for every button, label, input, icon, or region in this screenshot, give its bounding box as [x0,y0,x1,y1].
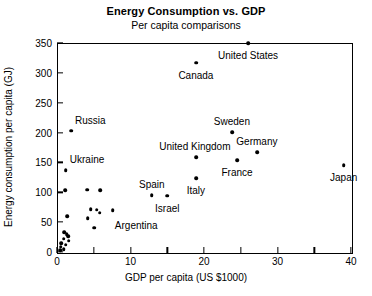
data-point-japan [342,164,346,168]
data-point [85,188,89,192]
point-label: Italy [187,185,205,196]
y-tick-label: 300 [35,67,52,78]
data-point [86,216,90,220]
data-point-italy [194,176,198,180]
x-tick-label: 20 [198,256,209,267]
x-tick-label: 10 [125,256,136,267]
data-point [67,239,71,243]
x-tick-mark [130,247,131,253]
data-point-ukraine [64,168,68,172]
data-point [66,235,70,239]
x-tick-label: 30 [272,256,283,267]
data-point [89,207,93,211]
data-point-israel [165,194,169,198]
data-point [93,226,97,230]
point-label: United States [218,50,278,61]
point-label: France [222,167,253,178]
data-point-spain [150,193,154,197]
y-axis-title: Energy consumption per capita (GJ) [3,67,14,227]
data-point-united-kingdom [194,155,198,159]
point-label: Argentina [115,220,158,231]
x-tick-mark [167,247,168,253]
y-tick-mark [57,42,63,43]
data-point-canada [194,61,198,65]
y-tick-label: 350 [35,38,52,49]
data-point-germany [255,150,259,154]
y-tick-mark [57,221,63,222]
point-label: Sweden [214,116,250,127]
data-point [64,243,68,247]
y-tick-mark [57,132,63,133]
data-point [98,211,102,215]
x-axis-title: GDP per capita (US $1000) [0,272,372,283]
data-point-russia [69,129,73,133]
point-label: Japan [330,172,357,183]
x-tick-mark [203,247,204,253]
y-tick-label: 150 [35,157,52,168]
chart-title: Energy Consumption vs. GDP [0,5,372,17]
chart-subtitle: Per capita comparisons [0,19,372,31]
point-label: Russia [75,115,106,126]
chart-figure: Energy Consumption vs. GDP Per capita co… [0,0,372,296]
point-label: Germany [236,136,277,147]
x-tick-mark [240,247,241,253]
data-point [99,189,103,193]
x-tick-mark [350,247,351,253]
x-tick-mark [314,247,315,253]
x-tick-label: 40 [345,256,356,267]
y-tick-label: 50 [41,217,52,228]
data-point [58,248,62,252]
y-tick-mark [57,102,63,103]
y-tick-label: 0 [46,247,52,258]
point-label: Spain [139,179,165,190]
y-tick-mark [57,72,63,73]
y-tick-mark [57,192,63,193]
x-tick-mark [277,247,278,253]
x-tick-mark [93,247,94,253]
data-point [63,189,67,193]
data-point-argentina [111,208,115,212]
data-point [62,237,66,241]
y-tick-mark [57,162,63,163]
y-tick-label: 200 [35,127,52,138]
data-point [62,247,66,251]
point-label: Israel [155,203,179,214]
data-point-united-states [246,41,250,45]
data-point [65,214,69,218]
point-label: Ukraine [70,154,104,165]
data-point-france [235,158,239,162]
x-tick-label: 0 [54,256,60,267]
y-tick-label: 100 [35,187,52,198]
data-point-sweden [230,130,234,134]
y-tick-label: 250 [35,97,52,108]
point-label: Canada [178,70,213,81]
point-label: United Kingdom [159,141,230,152]
